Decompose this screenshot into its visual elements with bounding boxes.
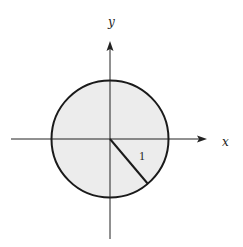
y-axis-label: y (107, 15, 115, 29)
radius-label: 1 (139, 149, 145, 163)
x-axis-label: x (222, 135, 229, 149)
unit-disk-diagram: y x 1 (0, 0, 243, 247)
